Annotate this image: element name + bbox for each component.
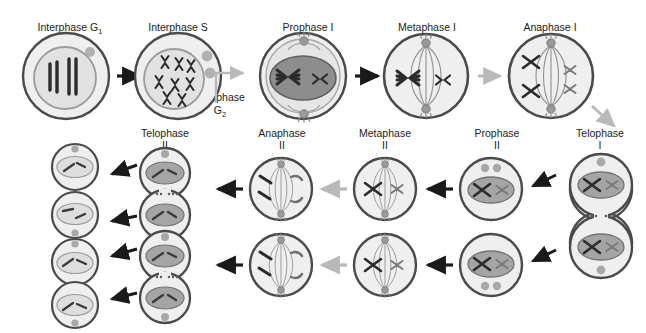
stage-telophase-i[interactable] [570,154,632,278]
arrow-telophase-i-to-prophase-ii-bottom [533,250,556,261]
centriole-icon [85,47,95,57]
stage-telophase-ii[interactable] [140,148,190,323]
centriole-icon [205,68,216,79]
stage-metaphase-i[interactable] [384,34,468,118]
metaphase-ii-cell-top [354,157,416,221]
stage-prophase-ii[interactable] [460,158,522,296]
anaphase-ii-cell-top [250,157,312,221]
arrow-to-gamete-4 [112,293,137,299]
meiosis-diagram: Interphase G1 Interphase S Prophase I Me… [0,0,646,333]
centriole-icon [597,266,606,275]
centriole-icon [71,240,78,247]
stage-interphase-s[interactable] [135,33,221,119]
stage-gametes[interactable] [52,144,98,328]
anaphase-ii-cell-bottom [250,233,312,297]
arrow-anaphase-i-to-telophase-i [592,106,614,126]
centriole-icon [493,282,501,290]
centriole-icon [493,164,501,172]
telophase-ii-pair-top [140,148,190,240]
centriole-icon [597,158,606,167]
stage-anaphase-ii[interactable] [250,157,312,297]
arrow-to-gamete-3 [112,249,137,256]
gamete-cell [52,144,98,190]
gamete-cell [52,239,98,285]
centriole-icon [71,145,78,152]
metaphase-ii-cell-bottom [354,233,416,297]
prophase-ii-cell-bottom [460,234,522,296]
stage-prophase-i[interactable] [260,32,346,123]
centriole-icon [161,313,169,321]
centriole-icon [202,51,213,62]
arrow-telophase-i-to-prophase-ii-top [533,175,556,186]
gamete-cell [52,192,98,238]
telophase-ii-pair-bottom [140,231,190,323]
diagram-canvas [0,0,646,333]
gamete-cell [52,282,98,328]
arrow-to-gamete-2 [112,216,137,221]
stage-anaphase-i[interactable] [509,34,593,118]
centriole-icon [71,319,78,326]
centriole-icon [71,229,78,236]
stage-metaphase-ii[interactable] [354,157,416,297]
arrow-to-gamete-1 [112,165,137,174]
centriole-icon [481,164,489,172]
prophase-ii-cell-top [460,158,522,220]
centriole-icon [161,150,169,158]
stage-interphase-g1[interactable] [23,33,109,119]
centriole-icon [481,282,489,290]
centriole-icon [161,233,169,241]
